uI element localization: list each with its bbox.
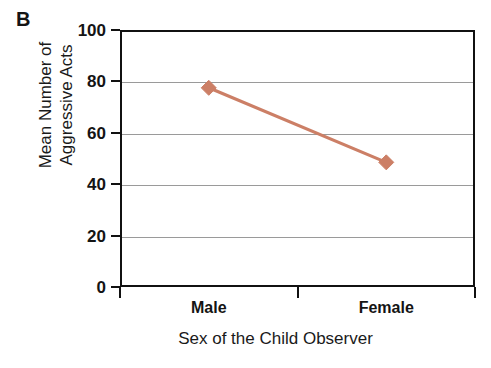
gridline xyxy=(122,134,473,135)
y-axis-tick-label: 0 xyxy=(64,279,106,296)
y-axis-tick-label: 20 xyxy=(64,227,106,244)
figure-panel-b: B Mean Number of Aggressive Acts 0204060… xyxy=(0,0,491,368)
y-axis-tick-label: 40 xyxy=(64,176,106,193)
y-axis-tick xyxy=(111,183,120,185)
x-axis-tick-label: Male xyxy=(191,300,227,316)
x-axis-tick xyxy=(119,287,121,298)
y-axis-tick xyxy=(111,235,120,237)
x-axis-title: Sex of the Child Observer xyxy=(0,330,491,347)
gridline xyxy=(122,237,473,238)
y-axis-title-line1: Mean Number of xyxy=(35,42,56,169)
x-axis-tick xyxy=(297,287,299,298)
y-axis-title-line2: Aggressive Acts xyxy=(56,45,77,166)
y-axis-tick-label: 80 xyxy=(64,73,106,90)
y-axis-tick xyxy=(111,29,120,31)
x-axis-tick-label: Female xyxy=(359,300,414,316)
plot-area xyxy=(120,30,475,287)
y-axis-tick xyxy=(111,132,120,134)
gridline xyxy=(122,82,473,83)
panel-letter-label: B xyxy=(16,9,30,29)
x-axis-tick xyxy=(474,287,476,298)
y-axis-tick xyxy=(111,80,120,82)
gridline xyxy=(122,185,473,186)
y-axis-tick-label: 100 xyxy=(64,22,106,39)
y-axis-tick-label: 60 xyxy=(64,124,106,141)
